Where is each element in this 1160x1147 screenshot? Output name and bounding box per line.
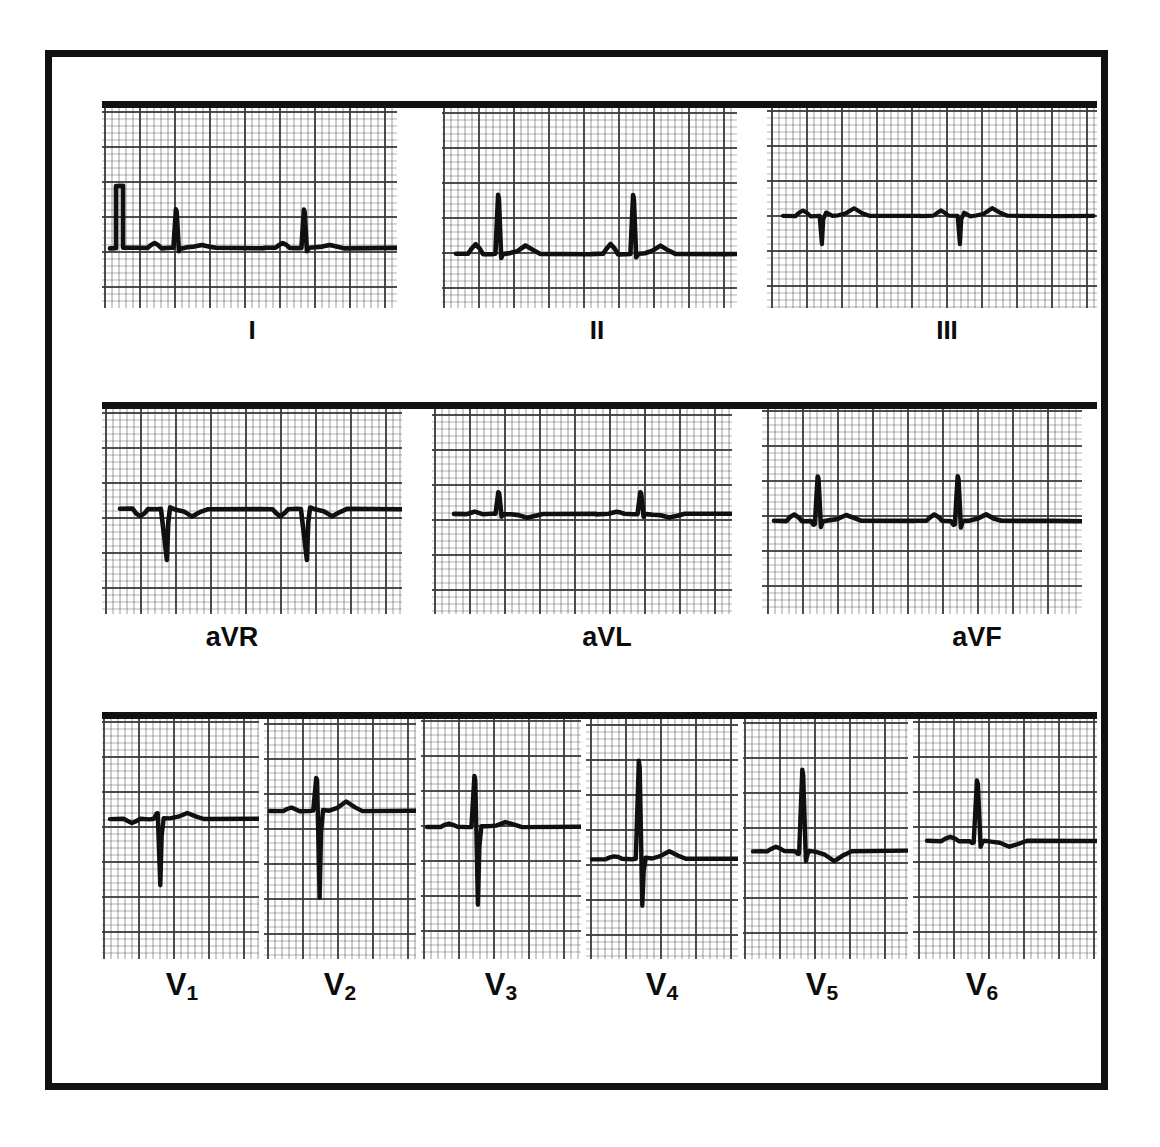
label-lead-V5: V5	[777, 969, 867, 1003]
label-lead-V2-sub: 2	[345, 981, 357, 1004]
panel-lead-III	[767, 108, 1097, 308]
label-lead-V3-sub: 3	[506, 981, 518, 1004]
row1-top-bar	[102, 101, 1097, 108]
label-lead-V4: V4	[617, 969, 707, 1003]
panel-lead-V5	[743, 719, 908, 959]
label-lead-V2: V2	[295, 969, 385, 1003]
label-lead-aVL: aVL	[547, 624, 667, 651]
label-lead-V6-letter: V	[966, 967, 987, 1002]
label-lead-V3: V3	[456, 969, 546, 1003]
label-lead-aVR: aVR	[172, 624, 292, 651]
label-lead-V1-letter: V	[166, 967, 187, 1002]
label-lead-aVF: aVF	[917, 624, 1037, 651]
label-lead-V4-letter: V	[646, 967, 667, 1002]
label-lead-V1-sub: 1	[187, 981, 199, 1004]
label-lead-I: I	[212, 317, 292, 343]
ecg-page: I II III aVR aVL aVF	[0, 0, 1160, 1147]
label-lead-V6: V6	[937, 969, 1027, 1003]
panel-lead-aVF	[762, 409, 1082, 614]
panel-lead-V4	[586, 719, 738, 959]
label-lead-V4-sub: 4	[667, 981, 679, 1004]
label-lead-II: II	[557, 317, 637, 343]
panel-lead-aVR	[102, 409, 402, 614]
label-lead-V6-sub: 6	[987, 981, 999, 1004]
label-lead-V5-sub: 5	[827, 981, 839, 1004]
label-lead-V5-letter: V	[806, 967, 827, 1002]
panel-lead-V6	[913, 719, 1097, 959]
panel-lead-I	[102, 108, 397, 308]
label-lead-V3-letter: V	[485, 967, 506, 1002]
panel-lead-V1	[102, 719, 259, 959]
row-precordial-leads: V1 V2 V3 V4 V5 V6	[52, 657, 1101, 1087]
row2-top-bar	[102, 402, 1097, 409]
row-limb-leads: I II III	[52, 57, 1101, 357]
label-lead-V2-letter: V	[324, 967, 345, 1002]
label-lead-III: III	[907, 317, 987, 343]
row3-top-bar	[102, 712, 1097, 719]
label-lead-V1: V1	[137, 969, 227, 1003]
panel-lead-V3	[421, 719, 581, 959]
row-augmented-leads: aVR aVL aVF	[52, 352, 1101, 657]
ecg-frame-border: I II III aVR aVL aVF	[45, 50, 1108, 1090]
panel-lead-II	[442, 108, 737, 308]
panel-lead-aVL	[432, 409, 732, 614]
panel-lead-V2	[264, 719, 416, 959]
